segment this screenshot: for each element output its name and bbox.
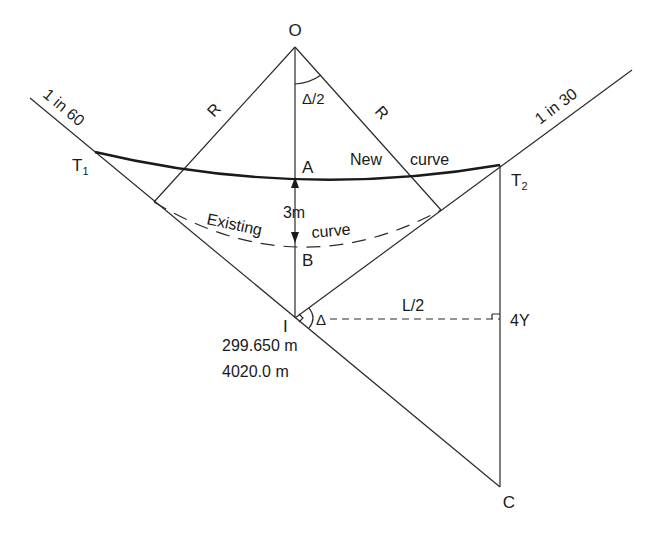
half-angle-label: Δ/2 [302, 90, 325, 107]
point-label-B: B [302, 251, 313, 270]
deflection-angle-label: Δ [316, 311, 326, 328]
new-curve-label-1: New [350, 151, 382, 168]
offset-label: 3m [283, 204, 305, 221]
point-label-A: A [302, 158, 314, 177]
point-label-C: C [503, 493, 515, 512]
grade-line-right [295, 70, 632, 318]
half-angle-arc [295, 75, 321, 84]
point-label-O: O [288, 21, 301, 40]
point-label-I: I [283, 317, 288, 336]
existing-curve-label-1: Existing [205, 210, 263, 238]
radius-line-right [295, 47, 441, 210]
half-length-label: L/2 [402, 297, 424, 314]
right-angle-marker [492, 314, 500, 319]
grade-label-left: 1 in 60 [40, 85, 88, 129]
deflection-angle-arc [309, 308, 313, 328]
point-label-4Y: 4Y [510, 312, 530, 329]
point-label-T1: T1 [72, 156, 89, 177]
level-at-I: 299.650 m [222, 337, 298, 354]
existing-curve-label-2: curve [311, 221, 352, 241]
offset-arrow-down [291, 232, 299, 243]
vertical-curve-diagram: O Δ/2 R R 1 in 60 1 in 30 T1 T2 A New cu… [0, 0, 651, 535]
point-label-T2: T2 [511, 171, 528, 192]
new-curve-label-2: curve [410, 151, 449, 168]
radius-label-left: R [204, 100, 224, 120]
radius-label-right: R [372, 103, 392, 123]
grade-label-right: 1 in 30 [532, 85, 581, 128]
chainage-at-I: 4020.0 m [222, 363, 289, 380]
angle-arrow [299, 314, 303, 322]
